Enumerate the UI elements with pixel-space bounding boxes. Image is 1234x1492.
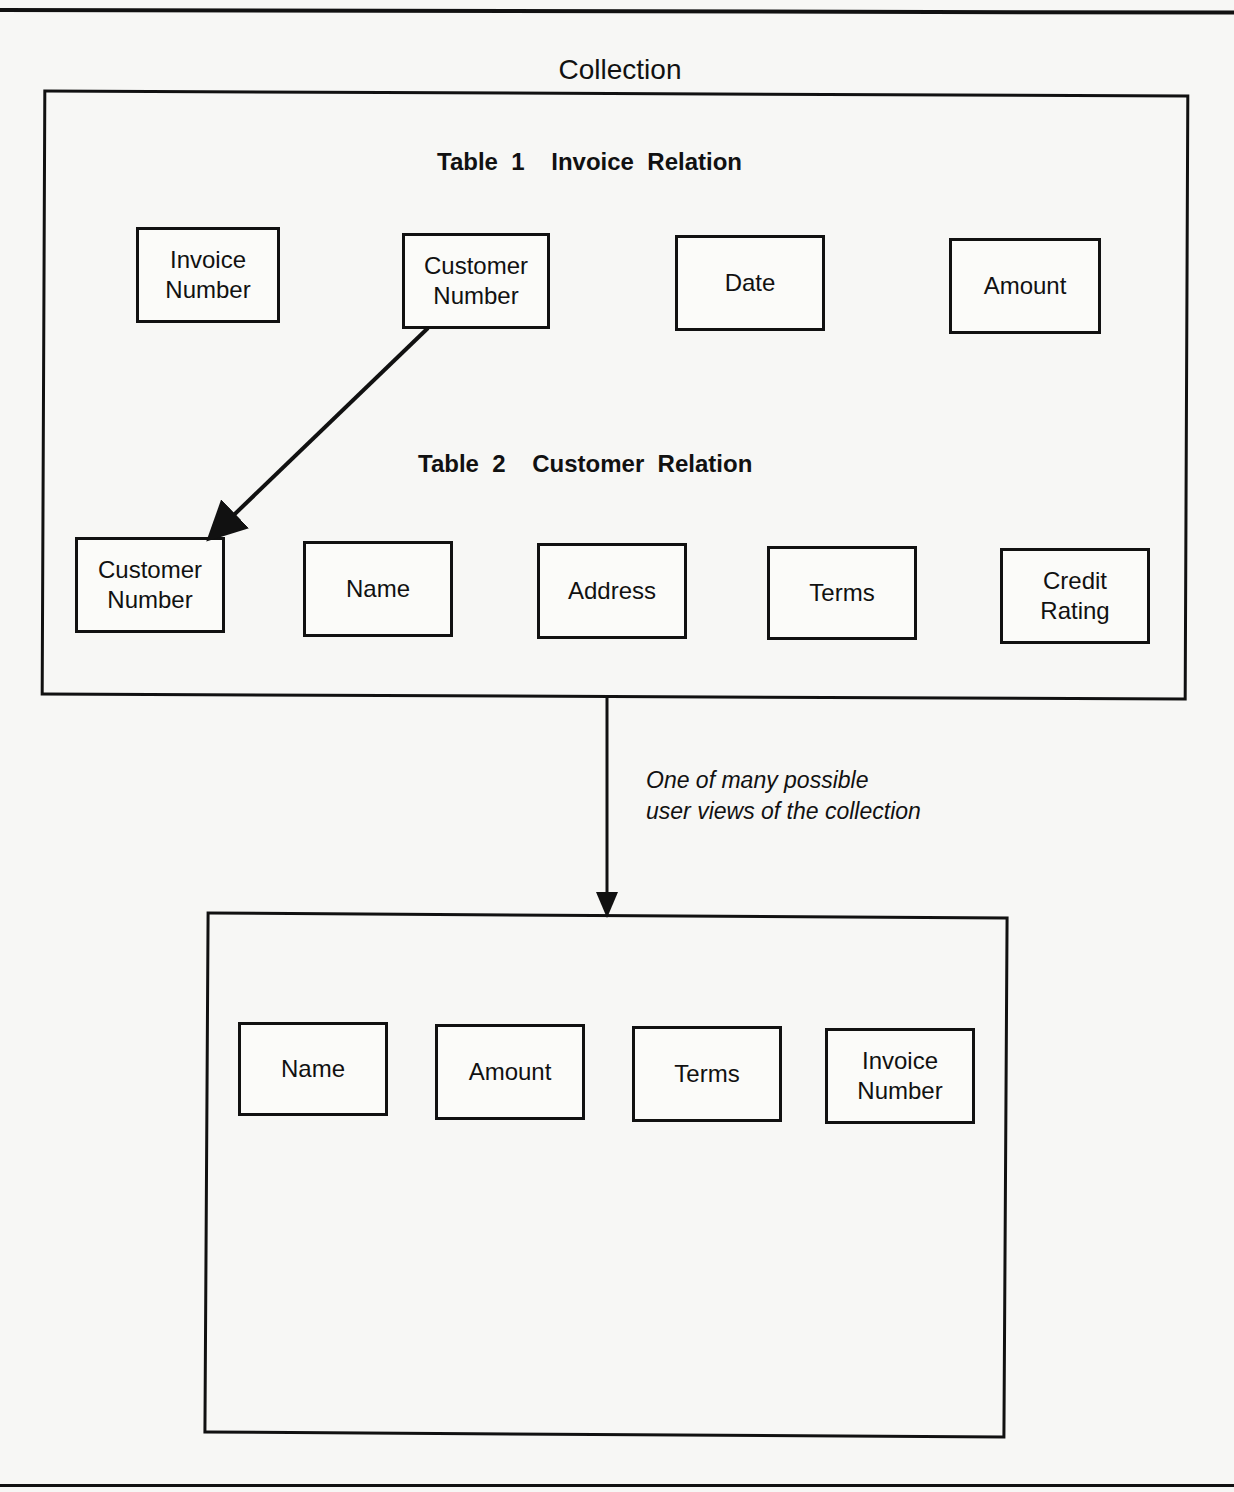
view-field-name: Name bbox=[238, 1022, 388, 1116]
bottom-rule bbox=[0, 1484, 1234, 1487]
user-view-frame bbox=[203, 912, 1008, 1439]
view-arrow-label-line2: user views of the collection bbox=[646, 796, 921, 827]
view-field-amount: Amount bbox=[435, 1024, 585, 1120]
view-field-invoice-number: Invoice Number bbox=[825, 1028, 975, 1124]
field-label: Invoice Number bbox=[857, 1046, 942, 1106]
foreign-key-arrow bbox=[212, 328, 428, 536]
view-arrow-label-line1: One of many possible bbox=[646, 765, 921, 796]
field-label: Amount bbox=[469, 1057, 552, 1087]
field-label: Name bbox=[281, 1054, 345, 1084]
view-arrow-label: One of many possible user views of the c… bbox=[646, 765, 921, 827]
field-label: Terms bbox=[674, 1059, 739, 1089]
view-field-terms: Terms bbox=[632, 1026, 782, 1122]
